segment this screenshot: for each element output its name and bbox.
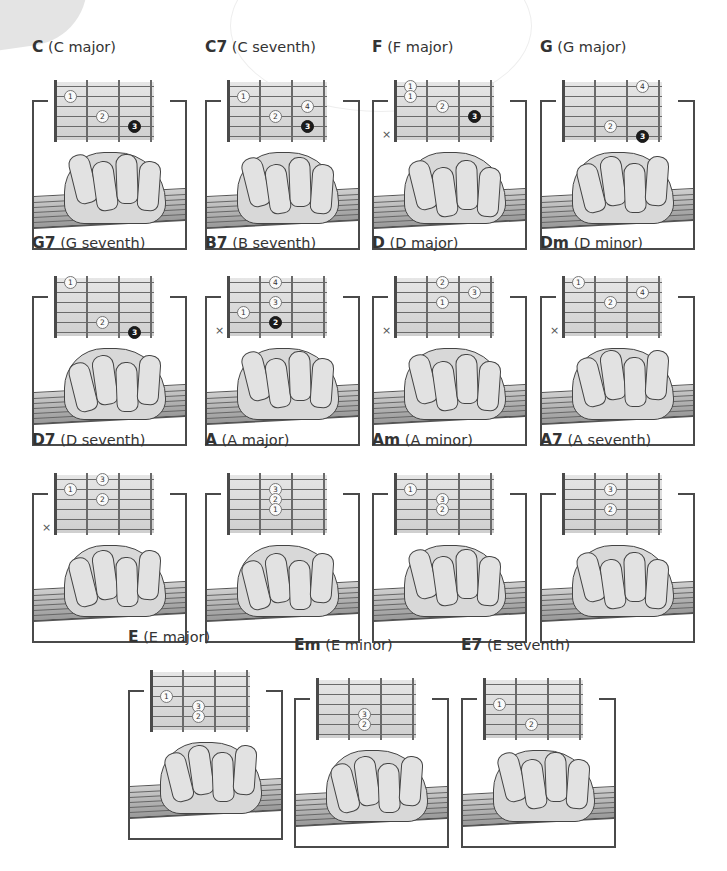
string-line (227, 292, 327, 293)
fret-line (515, 678, 517, 740)
frame-edge (294, 698, 310, 700)
finger-position-dot: 3 (96, 473, 109, 486)
finger-position-dot: 3 (128, 120, 141, 133)
finger-position-dot: 3 (604, 483, 617, 496)
chord-card-e7: E7 (E seventh)12 (461, 660, 619, 850)
finger-position-dot: 2 (436, 100, 449, 113)
fret-line (426, 80, 428, 142)
chord-diagram: 32 (562, 475, 662, 533)
hand-on-fretboard-illustration (130, 738, 281, 838)
string-line (54, 509, 154, 510)
nut-line (54, 276, 57, 338)
chord-card-a: A (A major)321 (205, 455, 363, 645)
string-line (316, 694, 416, 695)
finger-position-dot: 3 (301, 120, 314, 133)
nut-line (394, 276, 397, 338)
string-line (227, 332, 327, 333)
frame-edge (510, 296, 527, 298)
chord-symbol: G (540, 38, 553, 56)
fret-line (594, 276, 596, 338)
string-line (150, 686, 250, 687)
nut-line (394, 473, 397, 535)
fret-line (348, 678, 350, 740)
fret-line (150, 473, 152, 535)
chord-diagram: 1423 (227, 82, 327, 140)
fret-line (490, 80, 492, 142)
chord-diagram: ×231 (394, 278, 494, 336)
nut-line (562, 276, 565, 338)
fret-line (412, 678, 414, 740)
fret-line (150, 80, 152, 142)
nut-line (562, 80, 565, 142)
frame-edge (205, 100, 221, 102)
chord-diagram: ×312 (54, 475, 154, 533)
fret-line (658, 80, 660, 142)
string-line (54, 302, 154, 303)
fret-line (658, 276, 660, 338)
finger-position-dot: 3 (468, 110, 481, 123)
chord-card-b7: B7 (B seventh)×4312 (205, 258, 363, 448)
finger-position-dot: 3 (468, 286, 481, 299)
fret-line (490, 276, 492, 338)
finger-position-dot: 3 (269, 296, 282, 309)
fret-line (246, 670, 248, 732)
finger-position-dot: 3 (636, 130, 649, 143)
frame-edge (540, 493, 556, 495)
string-line (54, 292, 154, 293)
fret-line (259, 80, 261, 142)
fret-line (380, 678, 382, 740)
fret-line (323, 473, 325, 535)
frame-edge (32, 100, 48, 102)
string-line (394, 136, 494, 137)
chord-title: C (C major) (32, 38, 116, 56)
chord-diagram: ×142 (562, 278, 662, 336)
finger-position-dot: 2 (269, 316, 282, 329)
finger-position-dot: 2 (604, 296, 617, 309)
nut-line (562, 473, 565, 535)
fret-line (490, 473, 492, 535)
string-line (54, 312, 154, 313)
string-line (562, 96, 662, 97)
hand-on-fretboard-illustration (542, 344, 693, 444)
chord-title: Em (E minor) (294, 636, 393, 654)
chord-card-c7: C7 (C seventh)1423 (205, 62, 363, 252)
finger-position-dot: 2 (96, 493, 109, 506)
finger-position-dot: 2 (269, 110, 282, 123)
fret-line (86, 473, 88, 535)
chord-card-d7: D7 (D seventh)×312 (32, 455, 190, 645)
chord-diagram: 123 (54, 82, 154, 140)
chord-title: Am (A minor) (372, 431, 473, 449)
finger-position-dot: 4 (636, 286, 649, 299)
hand-on-fretboard-illustration (296, 746, 447, 846)
string-line (562, 312, 662, 313)
frame-edge (372, 493, 388, 495)
string-line (394, 312, 494, 313)
chord-full-name: (D seventh) (60, 432, 145, 448)
chord-full-name: (B seventh) (232, 235, 316, 251)
fret-line (594, 80, 596, 142)
fret-line (182, 670, 184, 732)
frame-edge (678, 100, 695, 102)
chord-diagram: 32 (316, 680, 416, 738)
finger-position-dot: 2 (96, 316, 109, 329)
finger-position-dot: 1 (493, 698, 506, 711)
string-line (227, 479, 327, 480)
chord-symbol: C7 (205, 38, 227, 56)
fret-line (458, 80, 460, 142)
frame-edge (461, 698, 477, 700)
frame-edge (372, 296, 388, 298)
chord-diagram: 132 (394, 475, 494, 533)
finger-position-dot: 1 (160, 690, 173, 703)
string-line (150, 676, 250, 677)
chord-symbol: A (205, 431, 217, 449)
hand-on-fretboard-illustration (374, 148, 525, 248)
string-line (562, 116, 662, 117)
chord-card-am: Am (A minor)132 (372, 455, 530, 645)
string-line (227, 529, 327, 530)
nut-line (227, 276, 230, 338)
chord-full-name: (D minor) (574, 235, 643, 251)
fret-line (458, 473, 460, 535)
frame-edge (170, 296, 187, 298)
finger-position-dot: 1 (572, 276, 585, 289)
hand-on-fretboard-illustration (34, 344, 185, 444)
